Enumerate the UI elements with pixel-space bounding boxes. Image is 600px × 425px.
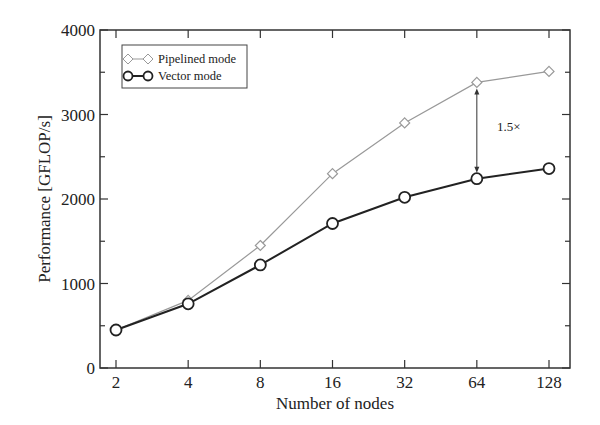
circle-marker-icon	[183, 298, 194, 309]
y-tick-label: 2000	[61, 190, 95, 209]
series-line	[116, 71, 549, 330]
diamond-marker-icon	[400, 118, 410, 128]
x-tick-label: 16	[324, 373, 341, 392]
y-axis-label: Performance [GFLOP/s]	[35, 115, 54, 283]
diamond-marker-icon	[472, 77, 482, 87]
x-tick-label: 128	[536, 373, 562, 392]
x-tick-label: 32	[396, 373, 413, 392]
circle-marker-icon	[327, 218, 338, 229]
circle-marker-icon	[255, 259, 266, 270]
speedup-annotation: 1.5×	[474, 88, 520, 172]
diamond-marker-icon	[544, 66, 554, 76]
x-tick-label: 8	[256, 373, 265, 392]
x-tick-label: 2	[112, 373, 121, 392]
circle-marker-icon	[399, 192, 410, 203]
y-tick-label: 3000	[61, 106, 95, 125]
legend-label-vector: Vector mode	[158, 69, 222, 83]
x-tick-label: 64	[468, 373, 486, 392]
y-tick-label: 1000	[61, 275, 95, 294]
circle-marker-icon	[544, 163, 555, 174]
performance-chart: 01000200030004000 248163264128 Number of…	[0, 0, 600, 425]
circle-marker-icon	[471, 173, 482, 184]
speedup-label: 1.5×	[497, 119, 521, 134]
series-vector-mode	[111, 163, 555, 335]
arrow-head-down-icon	[474, 167, 479, 173]
series-line	[116, 169, 549, 330]
x-tick-label: 4	[184, 373, 193, 392]
legend-label-pipelined: Pipelined mode	[158, 52, 237, 66]
circle-marker-icon	[111, 324, 122, 335]
circle-marker-icon	[144, 72, 153, 81]
y-tick-label: 0	[87, 359, 96, 378]
x-axis-label: Number of nodes	[276, 394, 394, 413]
y-tick-label: 4000	[61, 21, 95, 40]
legend: Pipelined mode Vector mode	[122, 45, 247, 88]
circle-marker-icon	[124, 72, 133, 81]
arrow-head-up-icon	[474, 88, 479, 94]
series-pipelined-mode	[111, 66, 554, 335]
